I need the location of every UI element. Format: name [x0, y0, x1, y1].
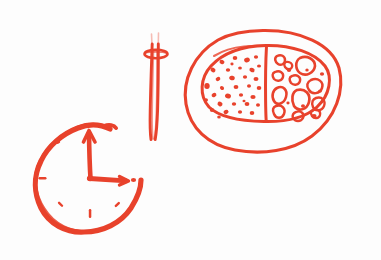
- food-dot: [239, 93, 243, 97]
- food-dot: [230, 63, 233, 66]
- food-dot: [210, 108, 214, 112]
- food-dot: [232, 102, 236, 106]
- food-dot: [257, 86, 262, 90]
- sketch-canvas: Hand-drawn sketch: clock, chopsticks and…: [0, 0, 381, 260]
- clock-tick-3: [131, 178, 136, 182]
- food-dot: [243, 75, 247, 79]
- clock-tick-9: [39, 177, 47, 179]
- food-dot: [320, 72, 324, 76]
- food-dot: [247, 84, 251, 87]
- food-dot: [233, 56, 238, 60]
- food-dot: [318, 89, 322, 92]
- food-dot: [204, 98, 208, 101]
- food-dot: [250, 95, 255, 99]
- food-dot: [311, 114, 316, 118]
- plate-divider: [266, 46, 267, 121]
- clock-minute-hand: [89, 133, 91, 179]
- food-dot: [286, 102, 289, 105]
- sketch-svg-surface: [0, 0, 381, 260]
- food-dot: [256, 103, 260, 106]
- food-dot: [226, 68, 230, 72]
- food-dot: [305, 69, 308, 72]
- food-dot: [234, 85, 239, 89]
- food-dot: [238, 110, 242, 113]
- food-dot: [238, 66, 242, 69]
- food-dot: [301, 104, 305, 107]
- paper-background: [0, 0, 381, 260]
- food-dot: [243, 100, 246, 103]
- food-dot: [287, 68, 291, 72]
- food-dot: [217, 116, 221, 119]
- clock-center-pivot: [87, 176, 93, 182]
- food-dot: [257, 64, 261, 67]
- clock-tick-6: [89, 209, 92, 218]
- food-dot: [250, 111, 255, 115]
- food-dot: [204, 83, 209, 89]
- food-dot: [254, 55, 258, 58]
- food-dot: [245, 102, 250, 106]
- clock-tick-12: [86, 124, 90, 128]
- food-dot: [254, 77, 259, 81]
